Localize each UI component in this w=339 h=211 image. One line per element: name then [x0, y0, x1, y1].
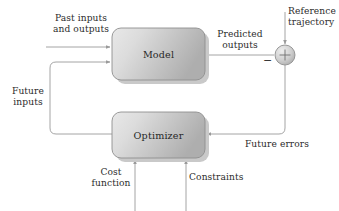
model-block-label: Model — [112, 49, 205, 60]
cost-function-label: Cost function — [88, 167, 134, 188]
line-future-errors — [207, 65, 285, 134]
predicted-outputs-label: Predicted outputs — [209, 29, 271, 50]
summing-junction-shape — [275, 45, 295, 65]
constraints-label: Constraints — [189, 172, 251, 183]
negative-sign-label: − — [263, 55, 272, 66]
line-future-inputs — [50, 62, 112, 134]
optimizer-block-label: Optimizer — [112, 130, 205, 141]
mpc-block-diagram: Model Optimizer Past inputs and outputs … — [0, 0, 339, 211]
past-inputs-label: Past inputs and outputs — [39, 13, 123, 34]
future-inputs-label: Future inputs — [7, 86, 49, 107]
future-errors-label: Future errors — [238, 139, 316, 150]
reference-trajectory-label: Reference trajectory — [288, 6, 338, 27]
